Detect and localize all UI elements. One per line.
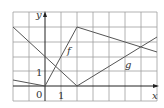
curve-g-label: g [125, 59, 131, 70]
x-tick-label: 1 [58, 90, 64, 101]
curve-f-label: f [66, 45, 73, 56]
origin-label: 0 [36, 89, 42, 100]
function-graph: y x 0 1 1 f g [0, 0, 164, 108]
grid [13, 12, 157, 101]
curve-f [13, 27, 157, 86]
y-tick-label: 1 [36, 67, 42, 78]
curve-g [13, 27, 157, 86]
x-axis-label: x [152, 90, 158, 101]
y-axis-label: y [35, 9, 42, 20]
x-axis-arrow-icon [153, 84, 159, 88]
